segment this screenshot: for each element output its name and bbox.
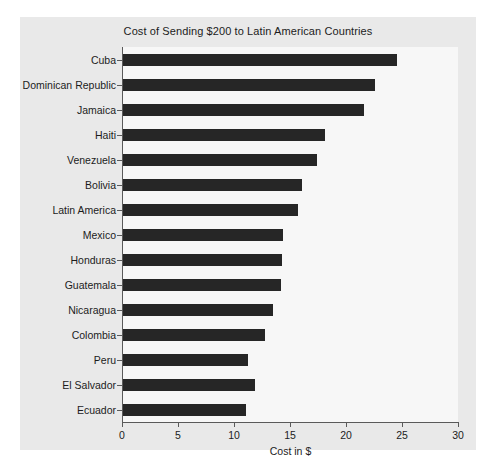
bar-category-label: El Salvador <box>62 379 116 391</box>
y-axis-tick <box>117 310 122 311</box>
bar <box>123 179 302 191</box>
y-axis-tick <box>117 85 122 86</box>
bar-category-label: Colombia <box>72 329 116 341</box>
bar-row: Guatemala <box>20 272 476 297</box>
bar <box>123 379 255 391</box>
bar-category-label: Latin America <box>52 204 116 216</box>
bar <box>123 204 298 216</box>
x-axis-tick <box>458 422 459 427</box>
bar-category-label: Venezuela <box>67 154 116 166</box>
y-axis-tick <box>117 360 122 361</box>
y-axis-tick <box>117 285 122 286</box>
x-axis-tick <box>178 422 179 427</box>
y-axis-tick <box>117 335 122 336</box>
x-axis-tick-label: 10 <box>219 429 249 441</box>
bar-category-label: Honduras <box>70 254 116 266</box>
chart-figure: Cost of Sending $200 to Latin American C… <box>20 17 476 450</box>
x-axis-tick-label: 15 <box>275 429 305 441</box>
bar-category-label: Nicaragua <box>68 304 116 316</box>
bar <box>123 229 283 241</box>
bar-row: Latin America <box>20 197 476 222</box>
x-axis-tick <box>402 422 403 427</box>
x-axis-tick-label: 25 <box>387 429 417 441</box>
y-axis-tick <box>117 410 122 411</box>
bar-row: Mexico <box>20 222 476 247</box>
y-axis-tick <box>117 160 122 161</box>
y-axis-tick <box>117 110 122 111</box>
bar-row: Venezuela <box>20 147 476 172</box>
bar <box>123 254 282 266</box>
bar-row: Honduras <box>20 247 476 272</box>
bar <box>123 279 281 291</box>
bar-row: Colombia <box>20 322 476 347</box>
x-axis-tick <box>234 422 235 427</box>
y-axis-tick <box>117 235 122 236</box>
x-axis-tick <box>122 422 123 427</box>
bar-category-label: Jamaica <box>77 104 116 116</box>
bar-category-label: Peru <box>94 354 116 366</box>
x-axis-tick-label: 20 <box>331 429 361 441</box>
bar <box>123 79 375 91</box>
bar-row: Peru <box>20 347 476 372</box>
y-axis-tick <box>117 210 122 211</box>
bar-row: Haiti <box>20 122 476 147</box>
bar-category-label: Ecuador <box>77 404 116 416</box>
chart-title: Cost of Sending $200 to Latin American C… <box>20 25 476 37</box>
bar-category-label: Bolivia <box>85 179 116 191</box>
x-axis-label: Cost in $ <box>122 445 459 457</box>
y-axis-tick <box>117 260 122 261</box>
bar-row: Ecuador <box>20 397 476 422</box>
y-axis-tick <box>117 385 122 386</box>
bar <box>123 304 273 316</box>
bar <box>123 329 265 341</box>
bar <box>123 354 248 366</box>
bar <box>123 129 325 141</box>
x-axis-tick-label: 0 <box>107 429 137 441</box>
bar-row: El Salvador <box>20 372 476 397</box>
x-axis-tick-label: 30 <box>443 429 473 441</box>
y-axis-tick <box>117 60 122 61</box>
bar-category-label: Haiti <box>95 129 116 141</box>
y-axis-tick <box>117 185 122 186</box>
bar-row: Cuba <box>20 47 476 72</box>
x-axis-tick <box>290 422 291 427</box>
x-axis-tick <box>346 422 347 427</box>
bar <box>123 54 397 66</box>
bar <box>123 404 246 416</box>
bar-row: Bolivia <box>20 172 476 197</box>
bar-row: Jamaica <box>20 97 476 122</box>
bar-row: Nicaragua <box>20 297 476 322</box>
bar-category-label: Mexico <box>83 229 116 241</box>
bar-category-label: Cuba <box>91 54 116 66</box>
y-axis-tick <box>117 135 122 136</box>
bar-category-label: Guatemala <box>65 279 116 291</box>
bar-category-label: Dominican Republic <box>23 79 116 91</box>
bar-row: Dominican Republic <box>20 72 476 97</box>
bar <box>123 104 364 116</box>
bar <box>123 154 317 166</box>
x-axis-tick-label: 5 <box>163 429 193 441</box>
